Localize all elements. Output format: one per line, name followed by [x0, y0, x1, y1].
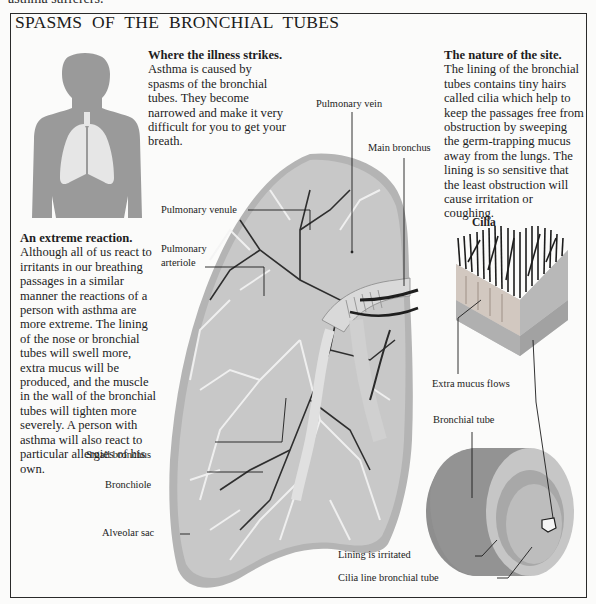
- nature-line: keep the passages free from: [444, 106, 594, 120]
- nature-line: coughing.: [444, 206, 594, 220]
- where-line: tubes. They become: [148, 91, 308, 105]
- human-silhouette-icon: [32, 53, 142, 218]
- label-pulmonary-venule: Pulmonary venule: [161, 204, 237, 215]
- lung-cutaway-illustration: [169, 153, 418, 587]
- label-main-bronchus: Main bronchus: [368, 142, 431, 153]
- where-line: difficult for you to get your: [148, 120, 308, 134]
- extreme-line: of the nose or bronchial: [20, 332, 160, 346]
- where-heading: Where the illness strikes.: [148, 48, 308, 62]
- nature-line: away from the lungs. The: [444, 149, 594, 163]
- label-bronchial-tube: Bronchial tube: [433, 414, 494, 425]
- extreme-line: manner the reactions of a: [20, 289, 160, 303]
- nature-section: The nature of the site. The lining of th…: [444, 48, 594, 221]
- nature-line: cause irritation or: [444, 192, 594, 206]
- nature-heading: The nature of the site.: [444, 48, 594, 62]
- nature-line: lining is so sensitive that: [444, 163, 594, 177]
- extreme-line: tubes will swell more,: [20, 346, 160, 360]
- cilia-illustration: [456, 226, 568, 356]
- extreme-line: severely. A person with: [20, 418, 160, 432]
- nature-line: tubes contains tiny hairs: [444, 77, 594, 91]
- label-cilia-line-bronchial-tube: Cilia line bronchial tube: [338, 572, 439, 583]
- extreme-line: tubes will tighten more: [20, 404, 160, 418]
- nature-line: called cilia which help to: [444, 91, 594, 105]
- label-bronchiole: Bronchiole: [105, 479, 151, 490]
- label-extra-mucus-flows: Extra mucus flows: [432, 378, 510, 389]
- where-line: Asthma is caused by: [148, 62, 308, 76]
- label-small-bronchus: Small bronchus: [86, 449, 151, 460]
- extreme-line: more extreme. The lining: [20, 317, 160, 331]
- extreme-heading: An extreme reaction.: [20, 231, 160, 245]
- extreme-line: passages in a similar: [20, 274, 160, 288]
- nature-line: the germ-trapping mucus: [444, 134, 594, 148]
- where-line: narrowed and make it very: [148, 106, 308, 120]
- nature-line: obstruction by sweeping: [444, 120, 594, 134]
- extreme-line: own.: [20, 462, 160, 476]
- label-pulmonary-vein: Pulmonary vein: [316, 98, 382, 109]
- nature-line: The lining of the bronchial: [444, 62, 594, 76]
- extreme-line: person with asthma are: [20, 303, 160, 317]
- extreme-line: extra mucus will be: [20, 361, 160, 375]
- label-pulmonary-arteriole-line2: arteriole: [161, 257, 196, 268]
- label-cilia: Cilia: [472, 216, 496, 228]
- label-lining-irritated: Lining is irritated: [338, 549, 411, 560]
- extreme-line: irritants in our breathing: [20, 260, 160, 274]
- label-alveolar-sac: Alveolar sac: [102, 527, 154, 538]
- where-line: breath.: [148, 134, 308, 148]
- label-pulmonary-arteriole-line1: Pulmonary: [161, 243, 207, 254]
- where-section: Where the illness strikes. Asthma is cau…: [148, 48, 308, 149]
- extreme-line: Although all of us react to: [20, 245, 160, 259]
- extreme-line: in the wall of the bronchial: [20, 389, 160, 403]
- extreme-section: An extreme reaction. Although all of us …: [20, 231, 160, 476]
- where-line: spasms of the bronchial: [148, 77, 308, 91]
- nature-line: the least obstruction will: [444, 178, 594, 192]
- extreme-line: produced, and the muscle: [20, 375, 160, 389]
- extreme-line: asthma will also react to: [20, 433, 160, 447]
